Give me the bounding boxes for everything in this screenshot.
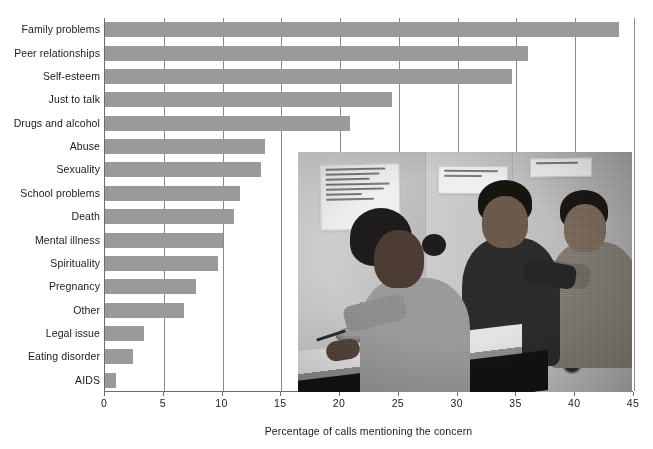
bar-fill: [105, 186, 240, 201]
tick-label-35: 35: [509, 397, 521, 409]
bar: [105, 209, 234, 224]
category-label: Legal issue: [0, 326, 100, 341]
bar-fill: [105, 209, 234, 224]
bar: [105, 373, 116, 388]
bar: [105, 139, 265, 154]
bar-fill: [105, 256, 218, 271]
bar: [105, 69, 512, 84]
category-label: School problems: [0, 186, 100, 201]
wall-sign-hotline: [530, 158, 592, 178]
bar-fill: [105, 22, 619, 37]
bar-fill: [105, 69, 512, 84]
tick-mark-15: [280, 392, 281, 396]
category-label: Peer relationships: [0, 46, 100, 61]
bar: [105, 116, 350, 131]
category-label: Self-esteem: [0, 69, 100, 84]
category-axis-labels: Family problemsPeer relationshipsSelf-es…: [0, 18, 100, 392]
tick-label-30: 30: [450, 397, 462, 409]
bar-fill: [105, 303, 184, 318]
tick-mark-35: [515, 392, 516, 396]
tick-label-45: 45: [627, 397, 639, 409]
tick-mark-30: [457, 392, 458, 396]
bar-fill: [105, 349, 133, 364]
bar-fill: [105, 139, 265, 154]
bar-fill: [105, 233, 223, 248]
category-label: Eating disorder: [0, 349, 100, 364]
category-label: Other: [0, 303, 100, 318]
bar-fill: [105, 279, 196, 294]
category-label: Just to talk: [0, 92, 100, 107]
category-label: Abuse: [0, 139, 100, 154]
person-foreground-on-phone: [350, 208, 490, 392]
tick-label-5: 5: [160, 397, 166, 409]
bar-fill: [105, 92, 392, 107]
inset-photograph: [298, 152, 632, 392]
category-label: AIDS: [0, 373, 100, 388]
bar-fill: [105, 46, 528, 61]
bar: [105, 162, 261, 177]
tick-label-10: 10: [215, 397, 227, 409]
category-label: Sexuality: [0, 162, 100, 177]
bar-fill: [105, 162, 261, 177]
bar: [105, 22, 619, 37]
category-label: Spirituality: [0, 256, 100, 271]
category-label: Drugs and alcohol: [0, 116, 100, 131]
gridline-45: [634, 18, 635, 391]
category-label: Mental illness: [0, 233, 100, 248]
bar: [105, 186, 240, 201]
bar: [105, 279, 196, 294]
tick-mark-20: [339, 392, 340, 396]
bar-chart-figure: Family problemsPeer relationshipsSelf-es…: [0, 0, 653, 449]
bar: [105, 46, 528, 61]
tick-mark-45: [633, 392, 634, 396]
bar: [105, 303, 184, 318]
tick-mark-40: [574, 392, 575, 396]
x-axis-ticks: 051015202530354045: [104, 392, 633, 412]
tick-mark-5: [163, 392, 164, 396]
tick-label-15: 15: [274, 397, 286, 409]
x-axis-title: Percentage of calls mentioning the conce…: [104, 425, 633, 437]
category-label: Family problems: [0, 22, 100, 37]
bar: [105, 256, 218, 271]
tick-mark-10: [222, 392, 223, 396]
tick-label-20: 20: [333, 397, 345, 409]
bar-fill: [105, 326, 144, 341]
tick-label-25: 25: [392, 397, 404, 409]
bar: [105, 92, 392, 107]
tick-label-40: 40: [568, 397, 580, 409]
tick-mark-25: [398, 392, 399, 396]
category-label: Death: [0, 209, 100, 224]
tick-mark-0: [104, 392, 105, 396]
tick-label-0: 0: [101, 397, 107, 409]
bar-fill: [105, 116, 350, 131]
bar: [105, 349, 133, 364]
category-label: Pregnancy: [0, 279, 100, 294]
bar: [105, 326, 144, 341]
bar: [105, 233, 223, 248]
bar-fill: [105, 373, 116, 388]
